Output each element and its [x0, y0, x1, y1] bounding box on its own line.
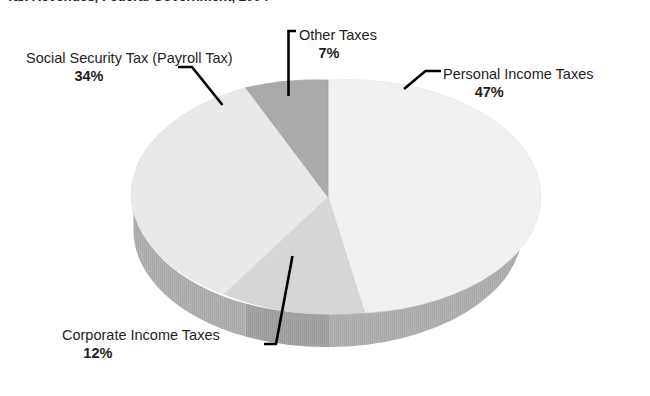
label-personal-income-taxes-value: 47%	[443, 84, 593, 102]
label-social-security-tax-name-line2: (Payroll Tax)	[152, 50, 232, 66]
label-social-security-tax-value: 34%	[26, 68, 174, 86]
label-social-security-tax-name-line1: Social Security Tax	[26, 50, 148, 66]
label-corporate-income-taxes-name: Corporate Income Taxes	[62, 327, 220, 343]
label-corporate-income-taxes-value: 12%	[62, 345, 220, 363]
label-corporate-income-taxes: Corporate Income Taxes 12%	[62, 327, 220, 362]
slice-personal-income-taxes	[328, 79, 541, 313]
label-personal-income-taxes: Personal Income Taxes 47%	[443, 66, 593, 101]
chart-canvas: Tax Revenues, Federal Government, 2004	[0, 0, 650, 396]
label-other-taxes-value: 7%	[299, 45, 377, 63]
label-other-taxes: Other Taxes 7%	[299, 27, 377, 62]
pie-top-face	[131, 79, 541, 314]
label-personal-income-taxes-name: Personal Income Taxes	[443, 66, 593, 82]
label-social-security-tax: Social Security Tax (Payroll Tax) 34%	[26, 50, 174, 85]
label-other-taxes-name: Other Taxes	[299, 27, 377, 45]
